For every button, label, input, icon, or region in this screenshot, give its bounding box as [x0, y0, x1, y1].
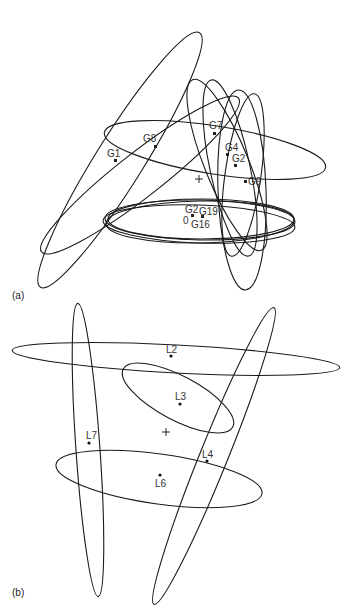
point-G2: [234, 164, 237, 167]
label-G4: G4: [225, 142, 239, 153]
label-G20-b: 0: [183, 215, 189, 226]
panel-a-ellipses: [20, 20, 329, 300]
label-G1: G1: [107, 148, 121, 159]
point-G4: [226, 153, 229, 156]
point-G9: [244, 180, 247, 183]
point-G1: [114, 159, 117, 162]
point-G8: [154, 145, 157, 148]
label-L7: L7: [86, 430, 98, 441]
ellipse-b5: [141, 302, 287, 609]
ellipse-a10: [192, 76, 269, 260]
ellipse-diagram: G1 G8 G7 G4 G2 G9 G2 0 G19 G16 (a) L2: [0, 0, 349, 612]
ellipse-a1: [20, 20, 220, 300]
label-L6: L6: [155, 478, 167, 489]
center-cross-a: [195, 175, 203, 183]
label-G2: G2: [232, 153, 246, 164]
label-G9: G9: [248, 176, 262, 187]
label-L3: L3: [175, 391, 187, 402]
point-L6: [158, 473, 161, 476]
panel-label-a: (a): [12, 290, 24, 301]
point-G7: [213, 132, 216, 135]
label-G19: G19: [199, 206, 218, 217]
label-G16: G16: [191, 219, 210, 230]
label-G20-a: G2: [185, 204, 199, 215]
panel-label-b: (b): [12, 587, 24, 598]
center-cross-b: [162, 428, 170, 436]
point-L7: [87, 441, 90, 444]
point-L3: [178, 402, 181, 405]
label-G7: G7: [209, 120, 223, 131]
label-L2: L2: [166, 344, 178, 355]
label-G8: G8: [143, 133, 157, 144]
label-L4: L4: [202, 449, 214, 460]
